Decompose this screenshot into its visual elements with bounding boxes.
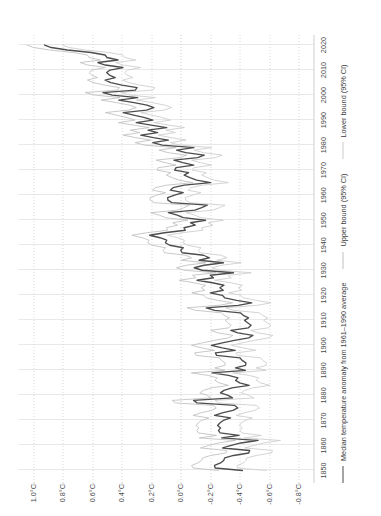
y-tick-mark xyxy=(62,483,63,486)
y-tick-mark xyxy=(180,483,181,486)
series-line-lower-bound xyxy=(62,45,280,470)
x-tick-label-2000: 2000 xyxy=(318,87,327,103)
legend-item-upper[interactable]: Upper bound (95% CI) xyxy=(338,174,347,269)
legend-item-lower[interactable]: Lower bound (95% CI) xyxy=(338,64,347,159)
y-tick-label--0p6: -0.6°C xyxy=(264,484,273,505)
x-tick-label-1970: 1970 xyxy=(318,162,327,178)
x-tick-label-1870: 1870 xyxy=(318,412,327,428)
temperature-anomaly-chart: 1.0°C0.8°C0.6°C0.4°C0.2°C0.0°C-0.2°C-0.4… xyxy=(0,0,381,516)
legend-label-upper: Upper bound (95% CI) xyxy=(338,174,347,247)
x-axis-line xyxy=(313,35,314,483)
x-tick-label-1940: 1940 xyxy=(318,237,327,253)
legend-item-median[interactable]: Median temperature anomaly from 1961–199… xyxy=(338,283,347,483)
y-tick-mark xyxy=(210,483,211,486)
x-tick-label-1990: 1990 xyxy=(318,112,327,128)
y-tick-mark xyxy=(269,483,270,486)
plot-area xyxy=(18,35,313,483)
y-tick-label-1: 1.0°C xyxy=(28,484,37,502)
x-tick-label-2010: 2010 xyxy=(318,62,327,78)
y-tick-mark xyxy=(239,483,240,486)
y-tick-label-0: 0.0°C xyxy=(176,484,185,502)
legend-swatch-upper xyxy=(342,252,343,269)
y-tick-mark xyxy=(151,483,152,486)
x-tick-label-1880: 1880 xyxy=(318,387,327,403)
x-tick-label-1900: 1900 xyxy=(318,337,327,353)
y-tick-mark xyxy=(33,483,34,486)
y-tick-label-0p2: 0.2°C xyxy=(146,484,155,502)
x-tick-label-1980: 1980 xyxy=(318,137,327,153)
chart-legend: Median temperature anomaly from 1961–199… xyxy=(338,35,347,483)
legend-label-median: Median temperature anomaly from 1961–199… xyxy=(338,283,347,461)
x-tick-label-1890: 1890 xyxy=(318,362,327,378)
legend-label-lower: Lower bound (95% CI) xyxy=(338,64,347,137)
y-tick-mark xyxy=(121,483,122,486)
x-tick-label-2020: 2020 xyxy=(318,37,327,53)
y-tick-label--0p4: -0.4°C xyxy=(235,484,244,505)
x-tick-label-1910: 1910 xyxy=(318,312,327,328)
x-tick-label-1860: 1860 xyxy=(318,437,327,453)
y-tick-mark xyxy=(92,483,93,486)
chart-canvas: 1.0°C0.8°C0.6°C0.4°C0.2°C0.0°C-0.2°C-0.4… xyxy=(0,0,381,516)
y-tick-label--0p2: -0.2°C xyxy=(205,484,214,505)
y-tick-label--0p8: -0.8°C xyxy=(294,484,303,505)
series-layer xyxy=(18,35,313,483)
x-tick-label-1930: 1930 xyxy=(318,262,327,278)
y-tick-label-0p4: 0.4°C xyxy=(117,484,126,502)
y-tick-label-0p6: 0.6°C xyxy=(87,484,96,502)
legend-swatch-median xyxy=(342,466,343,483)
x-tick-label-1920: 1920 xyxy=(318,287,327,303)
x-tick-label-1850: 1850 xyxy=(318,462,327,478)
legend-swatch-lower xyxy=(342,143,343,160)
x-tick-label-1950: 1950 xyxy=(318,212,327,228)
y-tick-label-0p8: 0.8°C xyxy=(58,484,67,502)
x-tick-label-1960: 1960 xyxy=(318,187,327,203)
y-tick-mark xyxy=(298,483,299,486)
series-line-upper-bound xyxy=(26,45,235,470)
